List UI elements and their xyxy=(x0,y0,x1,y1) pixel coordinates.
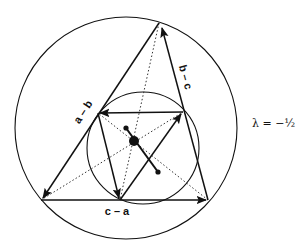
center-dot xyxy=(129,136,139,146)
inner-edge-qp xyxy=(100,112,183,113)
label-b-minus-c: b – c xyxy=(177,63,195,90)
inner-triangle xyxy=(98,112,183,200)
inner-circle xyxy=(87,92,199,204)
dot-upper xyxy=(123,125,128,130)
label-c-minus-a: c – a xyxy=(105,205,130,217)
label-a-minus-b: a – b xyxy=(71,98,95,126)
label-lambda: λ = −½ xyxy=(252,117,295,130)
edge-a-minus-b xyxy=(43,23,159,198)
geometry-diagram: a – b b – c c – a λ = −½ xyxy=(0,0,307,248)
edge-b-minus-c xyxy=(162,28,208,200)
dot-lower xyxy=(155,169,160,174)
